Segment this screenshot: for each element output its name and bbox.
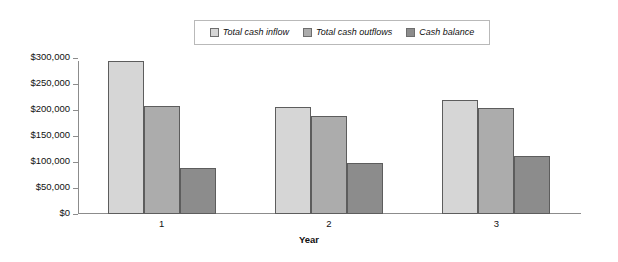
bar-chart: Total cash inflow Total cash outflows Ca…	[0, 0, 618, 262]
bar-2-series-1	[311, 116, 347, 214]
y-axis-tick-label: $200,000	[30, 104, 70, 114]
legend-swatch-icon-series-1	[303, 28, 312, 37]
bar-1-series-0	[108, 61, 144, 214]
bar-3-series-2	[514, 156, 550, 214]
legend-label-series-1: Total cash outflows	[316, 28, 392, 37]
bar-2-series-2	[347, 163, 383, 214]
y-axis-tick-label: $150,000	[30, 130, 70, 140]
legend-item-total-cash-inflow: Total cash inflow	[210, 28, 289, 37]
y-axis-tick-mark	[73, 214, 78, 215]
bar-1-series-2	[180, 168, 216, 214]
legend-label-series-2: Cash balance	[419, 28, 474, 37]
y-axis-tick-label: $300,000	[30, 52, 70, 62]
y-axis-tick-label: $0	[59, 208, 70, 218]
bar-group-2	[275, 58, 383, 214]
x-axis-category-label: 1	[108, 219, 216, 229]
legend-label-series-0: Total cash inflow	[223, 28, 289, 37]
x-axis-category-label: 3	[442, 219, 550, 229]
legend-item-total-cash-outflows: Total cash outflows	[303, 28, 392, 37]
legend-swatch-icon-series-2	[406, 28, 415, 37]
legend-item-cash-balance: Cash balance	[406, 28, 474, 37]
y-axis-tick-label: $250,000	[30, 78, 70, 88]
chart-legend: Total cash inflow Total cash outflows Ca…	[194, 20, 490, 45]
x-axis-category-label: 2	[275, 219, 383, 229]
y-axis-tick-label: $50,000	[36, 182, 70, 192]
plot-area	[78, 58, 580, 214]
bar-group-1	[108, 58, 216, 214]
legend-swatch-icon-series-0	[210, 28, 219, 37]
bar-2-series-0	[275, 107, 311, 214]
x-axis-title: Year	[0, 235, 618, 245]
bar-3-series-1	[478, 108, 514, 214]
y-axis-tick-label: $100,000	[30, 156, 70, 166]
bar-group-3	[442, 58, 550, 214]
bar-3-series-0	[442, 100, 478, 214]
bar-1-series-1	[144, 106, 180, 214]
